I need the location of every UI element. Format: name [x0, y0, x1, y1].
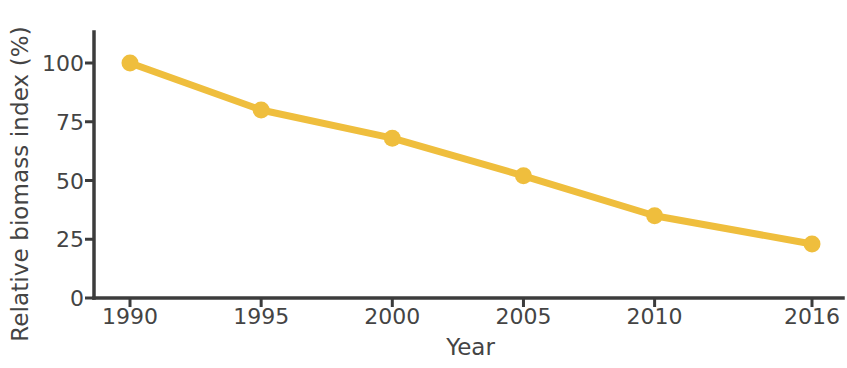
data-point-marker [515, 167, 532, 184]
y-tick-label: 0 [28, 286, 84, 311]
x-tick-label: 2005 [495, 304, 551, 329]
x-tick-label: 2000 [364, 304, 420, 329]
x-tick-label: 1990 [102, 304, 158, 329]
data-point-markers [122, 55, 821, 253]
chart-figure: Relative biomass index (%) 0255075100 19… [0, 0, 847, 368]
axis-spines [94, 32, 843, 298]
data-point-marker [253, 102, 270, 119]
x-tick-label: 2010 [627, 304, 683, 329]
data-point-marker [646, 207, 663, 224]
data-point-marker [384, 130, 401, 147]
x-tick-label: 2016 [784, 304, 840, 329]
data-point-marker [804, 235, 821, 252]
y-tick-label: 25 [28, 227, 84, 252]
data-line-relative-biomass-index [130, 63, 812, 244]
x-tick-label: 1995 [233, 304, 289, 329]
data-point-marker [122, 55, 139, 72]
y-tick-label: 100 [28, 51, 84, 76]
x-axis-title: Year [94, 334, 847, 360]
y-tick-label: 75 [28, 109, 84, 134]
y-tick-label: 50 [28, 168, 84, 193]
